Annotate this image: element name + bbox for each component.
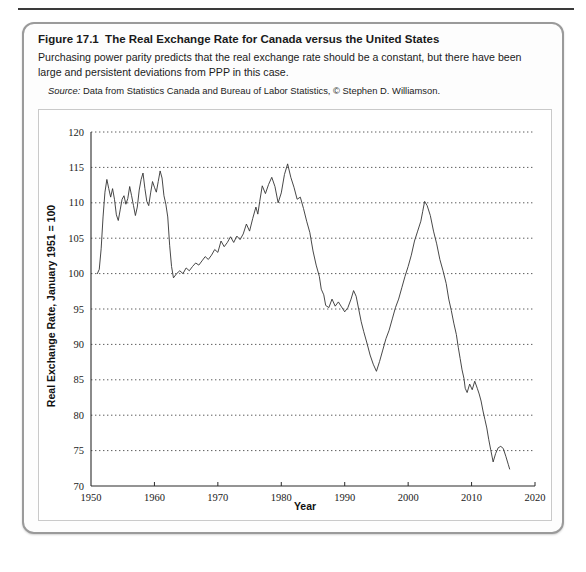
figure-title-text: The Real Exchange Rate for Canada versus… (105, 33, 439, 45)
series-line-0 (97, 164, 509, 469)
x-tick-label-1950: 1950 (81, 492, 102, 503)
x-tick-label-1960: 1960 (144, 492, 165, 503)
x-axis-title: Year (294, 500, 316, 512)
x-tick-label-2010: 2010 (461, 492, 482, 503)
y-tick-label-120: 120 (68, 127, 84, 138)
tick-labels-group: 7075808590951001051101151201950196019701… (68, 127, 545, 503)
y-axis-title: Real Exchange Rate, January 1951 = 100 (45, 205, 57, 407)
y-tick-label-100: 100 (68, 268, 84, 279)
x-tick-label-2000: 2000 (398, 492, 419, 503)
page-top-rule (18, 8, 574, 10)
chart-panel: 7075808590951001051101151201950196019701… (38, 109, 552, 521)
x-tick-label-1970: 1970 (207, 492, 228, 503)
source-text: Data from Statistics Canada and Bureau o… (83, 85, 440, 96)
y-tick-label-75: 75 (74, 445, 85, 456)
figure-description: Purchasing power parity predicts that th… (38, 50, 546, 79)
y-tick-label-90: 90 (74, 339, 85, 350)
y-tick-label-105: 105 (68, 233, 84, 244)
figure-title: Figure 17.1 The Real Exchange Rate for C… (38, 32, 552, 47)
gridlines-group (91, 132, 535, 451)
x-tick-label-1980: 1980 (271, 492, 292, 503)
figure-number: Figure 17.1 (38, 33, 99, 45)
line-chart: 7075808590951001051101151201950196019701… (39, 110, 551, 520)
x-tick-label-2020: 2020 (525, 492, 546, 503)
data-series-group (97, 164, 509, 469)
y-tick-label-115: 115 (69, 162, 84, 173)
figure-source: Source: Data from Statistics Canada and … (48, 84, 552, 97)
figure-card: Figure 17.1 The Real Exchange Rate for C… (22, 22, 564, 534)
source-label: Source: (48, 85, 80, 96)
y-tick-label-110: 110 (69, 197, 84, 208)
y-tick-label-95: 95 (74, 304, 85, 315)
y-tick-label-85: 85 (74, 374, 85, 385)
figure-caption-block: Figure 17.1 The Real Exchange Rate for C… (38, 32, 552, 97)
x-tick-label-1990: 1990 (334, 492, 355, 503)
y-tick-label-70: 70 (74, 481, 85, 492)
y-tick-label-80: 80 (74, 410, 85, 421)
